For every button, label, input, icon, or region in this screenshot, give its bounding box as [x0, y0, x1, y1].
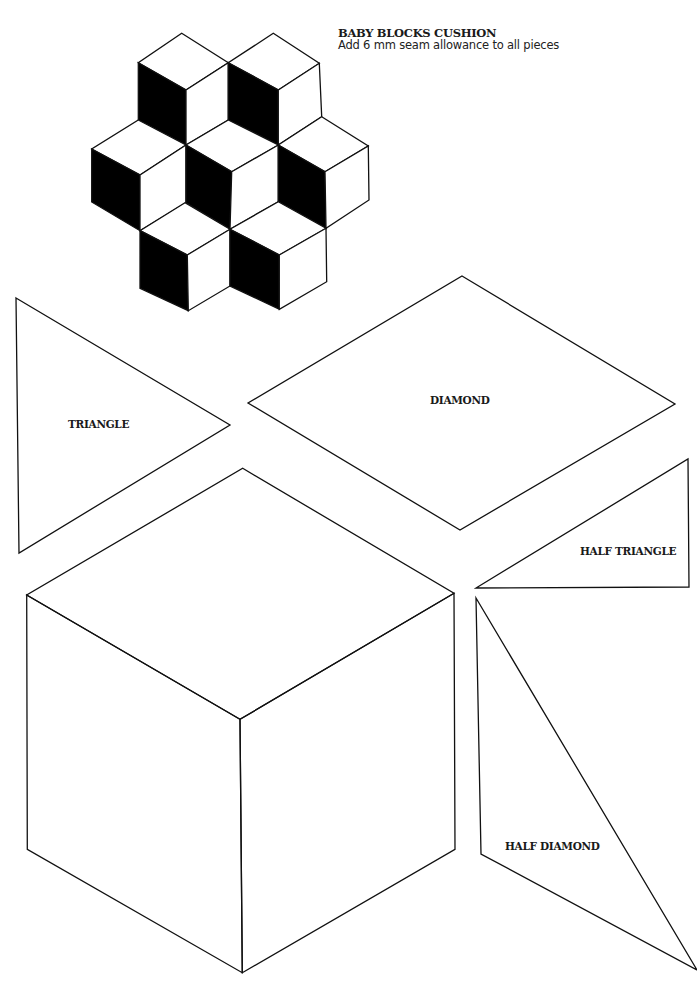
half-diamond-template — [476, 598, 697, 970]
pattern-sheet — [0, 0, 697, 986]
large-cube-template — [27, 468, 455, 972]
half-triangle-label: HALF TRIANGLE — [580, 545, 676, 557]
seam-allowance-note: Add 6 mm seam allowance to all pieces — [338, 38, 559, 52]
diamond-label: DIAMOND — [430, 394, 490, 406]
half-triangle-template — [476, 459, 689, 588]
baby-blocks-illustration — [92, 33, 369, 310]
triangle-label: TRIANGLE — [68, 418, 129, 430]
half-diamond-label: HALF DIAMOND — [505, 840, 600, 852]
